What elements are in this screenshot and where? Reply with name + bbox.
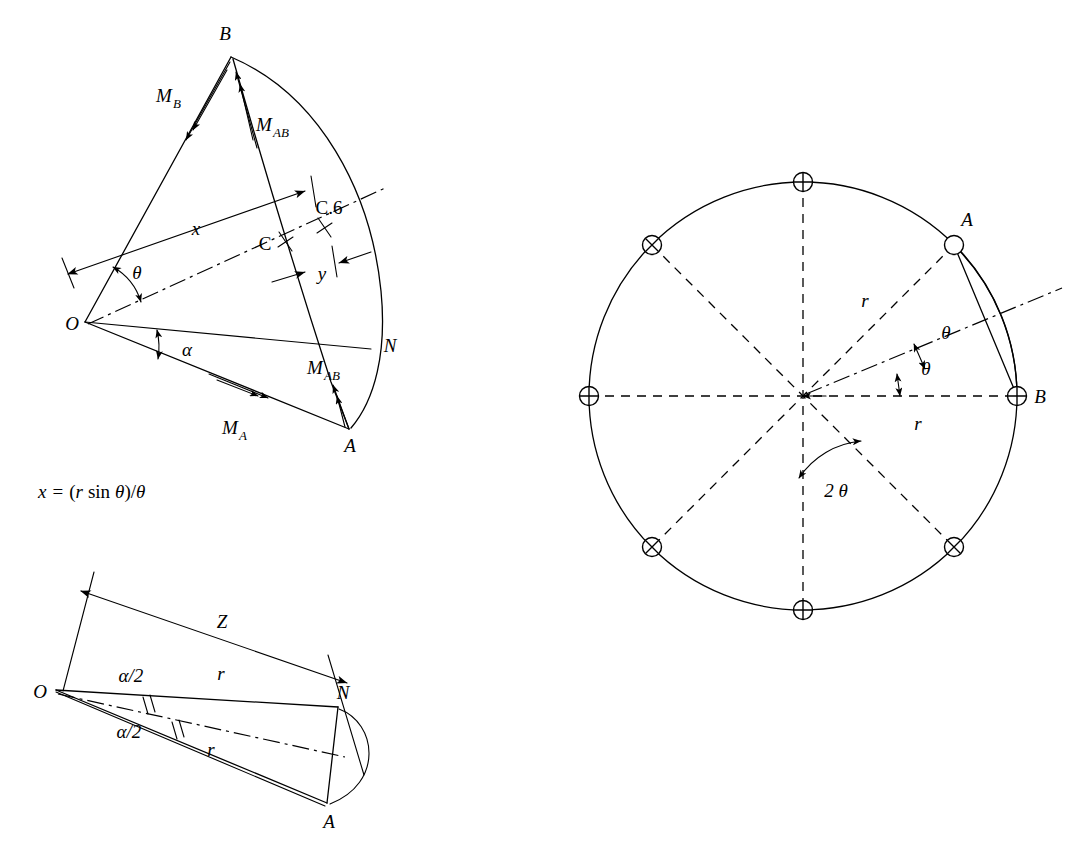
ring-node-b <box>1008 387 1027 406</box>
formula-sin: sin <box>88 481 111 502</box>
formula-close-slash: )/ <box>124 481 136 503</box>
label-ring-angle-theta-lower: θ <box>921 358 930 379</box>
label-angle-alpha-half-upper: α/2 <box>119 665 144 686</box>
dimension-tick-y-right <box>332 246 337 277</box>
label-point-b: B <box>219 23 231 44</box>
label-point-o-cone: O <box>33 681 47 702</box>
dimension-line-y-right <box>339 252 371 263</box>
label-angle-alpha: α <box>182 339 193 360</box>
label-moment-m-ab-top-subscript: AB <box>272 125 289 140</box>
chord-a-to-b <box>954 245 1017 396</box>
formula-block: x=(rsinθ)/θ <box>37 481 145 503</box>
label-moment-m-b: M <box>155 85 173 106</box>
label-radius-upper: r <box>217 663 225 684</box>
formula-theta-numerator: θ <box>115 481 124 502</box>
label-radius-lower: r <box>207 739 215 760</box>
moment-vector-m-ab-bottom <box>333 385 349 429</box>
ring-node-left <box>580 387 599 406</box>
formula-text: x=(rsinθ)/θ <box>37 481 145 503</box>
panel-ring-diagram: A B r θ θ r 2 θ <box>580 173 1063 620</box>
moment-vector-m-ab-top-second-head <box>240 84 253 140</box>
node-marker-circle <box>945 236 964 255</box>
line-o-to-n <box>85 322 371 349</box>
label-moment-m-ab-bottom-subscript: AB <box>323 368 340 383</box>
label-moment-m-b-subscript: B <box>173 96 181 111</box>
label-dimension-y: y <box>316 263 327 284</box>
angle-arc-alpha <box>157 330 159 359</box>
panel-arc-member: B M B M AB C.6 x C y θ O α N M AB M A A <box>62 23 398 456</box>
label-ring-point-a: A <box>959 209 973 230</box>
equal-angle-tick-upper <box>143 695 155 714</box>
label-point-o: O <box>65 313 79 334</box>
cross-marker-c6 <box>317 218 332 237</box>
moment-vector-m-a-second-head <box>217 380 258 396</box>
label-moment-m-a: M <box>221 417 239 438</box>
ring-node-a <box>945 236 964 255</box>
cross-marker-c <box>278 232 293 251</box>
label-point-n-cone: N <box>336 682 351 703</box>
label-point-a: A <box>342 435 356 456</box>
ring-node-lower-left <box>643 538 662 557</box>
label-point-c: C <box>259 233 272 254</box>
label-ring-point-b: B <box>1034 386 1046 407</box>
angle-arc-two-theta <box>799 441 861 478</box>
moment-vector-m-b-second-head <box>193 70 227 130</box>
label-moment-m-a-subscript: A <box>238 428 247 443</box>
angle-indicator-theta-lower <box>897 374 900 396</box>
formula-equals: = <box>52 481 63 502</box>
label-dimension-x: x <box>191 218 201 239</box>
label-ring-angle-two-theta: 2 θ <box>824 480 848 501</box>
label-ring-radius-upper: r <box>861 290 869 311</box>
label-ring-radius-lower: r <box>914 413 922 434</box>
label-angle-alpha-half-lower: α/2 <box>117 721 142 742</box>
formula-lhs: x <box>37 481 47 502</box>
bisector-dashdot-ring <box>806 288 1062 394</box>
edge-o-to-a-cone <box>56 690 327 803</box>
label-point-n: N <box>383 335 398 356</box>
moment-vector-m-a <box>209 374 268 398</box>
label-point-a-cone: A <box>321 811 335 832</box>
ring-node-lower-right <box>945 538 964 557</box>
label-angle-theta: θ <box>132 262 141 283</box>
bisector-centreline <box>58 694 345 757</box>
label-moment-m-ab-top: M <box>255 114 273 135</box>
ring-node-upper-left <box>643 236 662 255</box>
figure-canvas: B M B M AB C.6 x C y θ O α N M AB M A A … <box>0 0 1068 843</box>
moment-vector-m-b <box>186 62 230 140</box>
label-dimension-z: Z <box>217 611 228 632</box>
edge-o-to-a-outer <box>56 692 325 806</box>
moment-vector-m-ab-bottom-second-head <box>337 396 345 427</box>
extension-line-right <box>328 655 364 775</box>
equal-angle-tick-lower <box>172 720 184 739</box>
formula-r: r <box>75 481 83 502</box>
dimension-line-y-left <box>272 272 305 282</box>
extension-line-left <box>63 572 94 691</box>
figure-root: B M B M AB C.6 x C y θ O α N M AB M A A … <box>0 0 1068 843</box>
ring-node-bottom <box>794 601 813 620</box>
label-ring-angle-theta-upper: θ <box>941 322 950 343</box>
ring-node-top <box>794 173 813 192</box>
label-point-c6: C.6 <box>316 197 343 218</box>
formula-theta-denominator: θ <box>136 481 145 502</box>
label-moment-m-ab-bottom: M <box>306 357 324 378</box>
panel-cone-geometry: Z α/2 r O N α/2 r A <box>33 572 369 832</box>
edge-o-to-n <box>56 690 338 707</box>
